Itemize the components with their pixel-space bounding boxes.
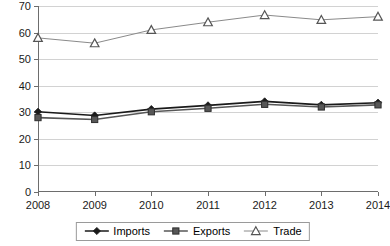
x-axis-tick bbox=[321, 192, 322, 196]
series-layer bbox=[38, 6, 378, 192]
legend-marker-filled-diamond-icon bbox=[83, 225, 109, 237]
legend-marker-open-triangle-icon bbox=[243, 225, 269, 237]
series-trade bbox=[34, 11, 383, 47]
data-point-marker bbox=[374, 12, 383, 20]
x-axis-tick-label: 2014 bbox=[366, 200, 390, 211]
x-axis-tick bbox=[208, 192, 209, 196]
x-axis-tick-label: 2011 bbox=[196, 200, 220, 211]
y-axis-tick-label: 10 bbox=[19, 160, 31, 171]
legend-item-trade[interactable]: Trade bbox=[243, 225, 301, 237]
legend-label: Imports bbox=[113, 225, 150, 237]
x-axis-tick-label: 2012 bbox=[252, 200, 276, 211]
y-axis-tick-label: 20 bbox=[19, 133, 31, 144]
data-point-marker bbox=[148, 109, 154, 115]
y-axis-tick-label: 40 bbox=[19, 80, 31, 91]
data-point-marker bbox=[92, 116, 98, 122]
legend-marker-filled-square-icon bbox=[163, 225, 189, 237]
x-axis-tick-label: 2009 bbox=[82, 200, 106, 211]
legend-label: Exports bbox=[193, 225, 230, 237]
y-axis-tick-label: 60 bbox=[19, 27, 31, 38]
data-point-marker bbox=[34, 34, 43, 42]
y-axis-tick-label: 0 bbox=[25, 187, 31, 198]
x-axis-tick bbox=[378, 192, 379, 196]
legend-item-imports[interactable]: Imports bbox=[83, 225, 150, 237]
y-axis-tick-label: 30 bbox=[19, 107, 31, 118]
data-point-marker bbox=[262, 101, 268, 107]
legend-item-exports[interactable]: Exports bbox=[163, 225, 230, 237]
data-point-marker bbox=[35, 115, 41, 121]
y-axis-tick-label: 70 bbox=[19, 1, 31, 12]
x-axis-tick bbox=[38, 192, 39, 196]
data-point-marker bbox=[205, 105, 211, 111]
data-point-marker bbox=[375, 102, 381, 108]
x-axis-tick bbox=[265, 192, 266, 196]
x-axis-tick bbox=[95, 192, 96, 196]
legend-label: Trade bbox=[273, 225, 301, 237]
x-axis-tick-label: 2013 bbox=[309, 200, 333, 211]
data-point-marker bbox=[260, 11, 269, 19]
x-axis-tick-label: 2010 bbox=[139, 200, 163, 211]
x-axis-tick bbox=[151, 192, 152, 196]
y-axis-tick-label: 50 bbox=[19, 54, 31, 65]
x-axis-tick-label: 2008 bbox=[26, 200, 50, 211]
data-point-marker bbox=[318, 104, 324, 110]
plot-area: 010203040506070 200820092010201120122013… bbox=[38, 6, 378, 192]
chart-legend: ImportsExportsTrade bbox=[75, 222, 309, 241]
